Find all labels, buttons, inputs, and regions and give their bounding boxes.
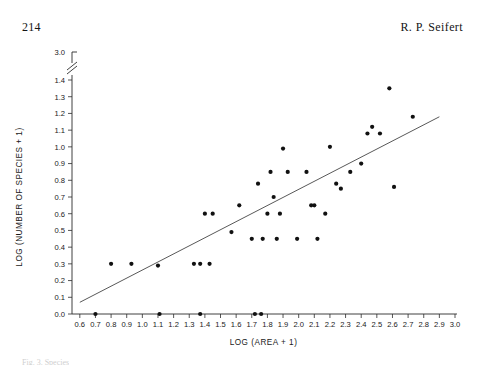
regression-fit-line bbox=[80, 117, 440, 303]
x-axis-tick-label: 1.1 bbox=[153, 320, 164, 329]
y-axis-tick-label: 1.1 bbox=[54, 126, 65, 135]
x-axis-tick-label: 2.4 bbox=[356, 320, 367, 329]
axes-group bbox=[67, 52, 457, 318]
y-axis-tick-label: 0.1 bbox=[54, 293, 65, 302]
y-axis-tick-label: 1.0 bbox=[54, 143, 65, 152]
data-point bbox=[198, 312, 202, 316]
data-point bbox=[109, 262, 113, 266]
x-axis-tick-label: 1.0 bbox=[137, 320, 148, 329]
data-point bbox=[359, 161, 363, 165]
x-axis-tick-label: 1.3 bbox=[184, 320, 195, 329]
y-axis-tick-label: 0.9 bbox=[54, 159, 65, 168]
data-point bbox=[312, 203, 316, 207]
y-axis-tick-label: 0.3 bbox=[54, 260, 65, 269]
axis-break-slash-upper bbox=[67, 66, 77, 74]
x-axis-tick-label: 0.8 bbox=[106, 320, 117, 329]
data-point bbox=[334, 182, 338, 186]
x-axis-title: LOG (AREA + 1) bbox=[230, 338, 298, 347]
y-axis-tick-label: 0.8 bbox=[54, 176, 65, 185]
data-point bbox=[295, 237, 299, 241]
x-axis-tick-label: 2.7 bbox=[403, 320, 414, 329]
x-axis-tick-label: 1.5 bbox=[215, 320, 226, 329]
y-axis-tick-label: 0.7 bbox=[54, 193, 65, 202]
data-point bbox=[198, 262, 202, 266]
data-point bbox=[365, 131, 369, 135]
regression-line bbox=[80, 117, 440, 303]
data-point bbox=[211, 212, 215, 216]
data-point bbox=[323, 212, 327, 216]
data-point bbox=[229, 230, 233, 234]
x-axis-tick-label: 2.9 bbox=[434, 320, 445, 329]
y-axis-title: LOG (NUMBER OF SPECIES + 1) bbox=[15, 127, 24, 266]
data-point bbox=[370, 125, 374, 129]
x-axis-tick-label: 1.4 bbox=[200, 320, 211, 329]
scatter-plot-svg: 0.60.70.80.91.01.11.21.31.41.51.61.71.81… bbox=[0, 0, 487, 365]
data-point bbox=[256, 182, 260, 186]
y-axis-tick-label: 0.4 bbox=[54, 243, 65, 252]
data-point bbox=[253, 312, 257, 316]
x-axis-tick-label: 1.8 bbox=[262, 320, 273, 329]
x-axis-tick-label: 1.9 bbox=[278, 320, 289, 329]
data-point bbox=[129, 262, 133, 266]
data-point bbox=[339, 187, 343, 191]
data-point bbox=[387, 86, 391, 90]
data-point bbox=[207, 262, 211, 266]
axis-labels-group: 0.60.70.80.91.01.11.21.31.41.51.61.71.81… bbox=[15, 48, 460, 347]
data-point bbox=[378, 131, 382, 135]
x-axis-tick-label: 3.0 bbox=[450, 320, 461, 329]
data-point bbox=[259, 312, 263, 316]
x-axis-tick-label: 2.1 bbox=[309, 320, 320, 329]
journal-page: 214 R. P. Seifert 0.60.70.80.91.01.11.21… bbox=[0, 0, 487, 365]
data-point bbox=[268, 170, 272, 174]
x-axis-tick-label: 1.6 bbox=[231, 320, 242, 329]
data-point bbox=[328, 145, 332, 149]
data-point bbox=[411, 115, 415, 119]
x-axis-tick-label: 1.2 bbox=[168, 320, 179, 329]
axis-break-slash-lower bbox=[67, 62, 77, 70]
x-axis-tick-label: 2.8 bbox=[418, 320, 429, 329]
data-point bbox=[157, 312, 161, 316]
data-point bbox=[237, 203, 241, 207]
y-axis-tick-label: 0.6 bbox=[54, 210, 65, 219]
y-axis-tick-label: 1.3 bbox=[54, 93, 65, 102]
x-axis-tick-label: 1.7 bbox=[246, 320, 257, 329]
data-point bbox=[272, 195, 276, 199]
y-axis-tick-label: 0.5 bbox=[54, 226, 65, 235]
data-point bbox=[156, 263, 160, 267]
y-axis-tick-label: 0.2 bbox=[54, 276, 65, 285]
x-axis-tick-label: 2.3 bbox=[340, 320, 351, 329]
data-point bbox=[348, 170, 352, 174]
data-point bbox=[93, 312, 97, 316]
data-point bbox=[265, 212, 269, 216]
scatter-figure: 0.60.70.80.91.01.11.21.31.41.51.61.71.81… bbox=[0, 0, 487, 365]
data-point bbox=[192, 262, 196, 266]
data-point bbox=[281, 146, 285, 150]
data-point bbox=[203, 212, 207, 216]
x-axis-tick-label: 2.6 bbox=[387, 320, 398, 329]
x-axis-tick-label: 0.9 bbox=[121, 320, 132, 329]
data-point bbox=[278, 212, 282, 216]
data-point bbox=[261, 237, 265, 241]
data-point bbox=[315, 237, 319, 241]
x-axis-tick-label: 0.7 bbox=[90, 320, 101, 329]
y-axis-tick-label: 1.2 bbox=[54, 109, 65, 118]
data-point bbox=[304, 170, 308, 174]
data-point bbox=[250, 237, 254, 241]
y-axis-break-label: 3.0 bbox=[54, 48, 65, 57]
y-axis-tick-label: 1.4 bbox=[54, 76, 65, 85]
data-point bbox=[275, 237, 279, 241]
x-axis-tick-label: 2.0 bbox=[293, 320, 304, 329]
x-axis-tick-label: 2.2 bbox=[325, 320, 336, 329]
data-point bbox=[392, 185, 396, 189]
x-axis-tick-label: 0.6 bbox=[75, 320, 86, 329]
y-axis-tick-label: 0.0 bbox=[54, 310, 65, 319]
x-axis-tick-label: 2.5 bbox=[372, 320, 383, 329]
data-points-group bbox=[93, 86, 415, 316]
figure-caption-partial: Fig. 3. Species bbox=[22, 358, 69, 365]
data-point bbox=[286, 170, 290, 174]
